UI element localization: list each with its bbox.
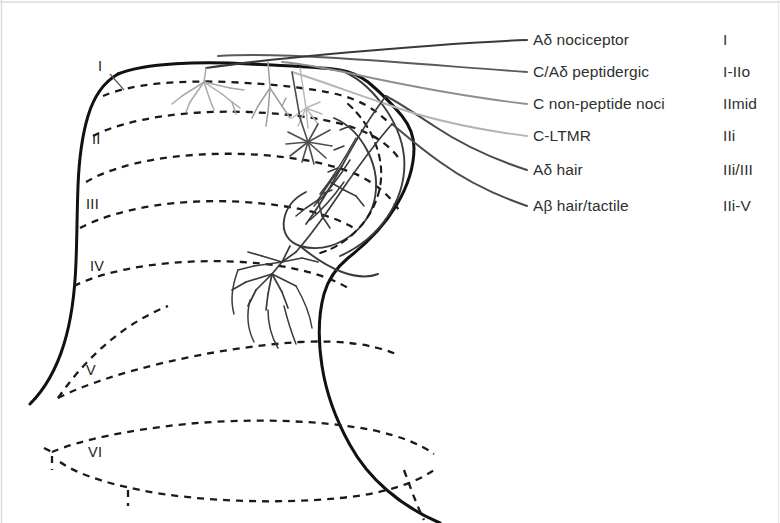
figure-root: Aδ nociceptor I C/Aδ peptidergic I-IIo C…	[0, 0, 780, 523]
lamina-numeral-II: II	[92, 131, 101, 147]
boundary-V-lower	[58, 342, 396, 399]
arbor-c-adelta-peptidergic	[252, 62, 290, 126]
boundary-corner-tick	[44, 448, 52, 470]
finger-internal-fibers	[310, 126, 356, 220]
dorsal-horn-diagram	[0, 0, 780, 523]
arbor-abeta-hair-tactile	[232, 246, 318, 310]
page-frame	[0, 0, 780, 523]
lamina-numeral-VI: VI	[88, 444, 102, 460]
arbor-adelta-hair	[296, 166, 364, 228]
boundary-II-III	[86, 154, 400, 212]
arbor-adelta-nociceptor	[172, 68, 244, 114]
lamina-numeral-IV: IV	[90, 258, 104, 274]
boundary-V-VI	[52, 421, 434, 454]
descending-collaterals	[232, 270, 312, 348]
lamina-numeral-I: I	[98, 58, 102, 74]
lamina-numeral-III: III	[86, 196, 99, 212]
boundary-I-II	[103, 82, 388, 122]
boundary-IIo-IIi	[93, 112, 400, 160]
lamina-numeral-V: V	[86, 362, 96, 378]
lamina-boundaries	[44, 82, 434, 520]
boundary-V-left	[58, 306, 168, 398]
boundary-IV-V	[74, 261, 348, 288]
